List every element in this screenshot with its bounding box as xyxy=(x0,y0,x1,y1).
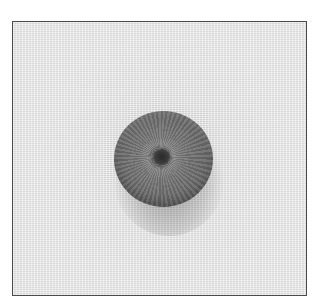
embroidered-eyelet xyxy=(114,111,213,207)
photo-frame xyxy=(12,21,307,296)
eyelet-hole xyxy=(154,149,170,165)
